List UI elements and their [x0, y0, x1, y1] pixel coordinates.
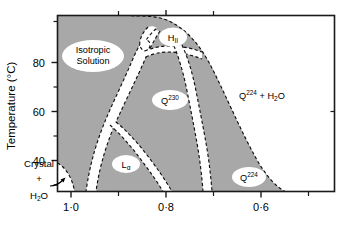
- q224w-end: O: [278, 91, 285, 101]
- corner-label-water: H2O: [30, 190, 48, 202]
- q224w-plus: + H: [257, 91, 274, 101]
- y-tick-label-80: 80: [33, 57, 45, 69]
- q224w-main: Q: [239, 91, 246, 101]
- phase-diagram-canvas: Temperature (°C) 80 60 40 1·0 0·8 0·6 Cr…: [0, 0, 345, 226]
- cubic-q224-label-sup: 224: [247, 171, 258, 178]
- x-tick-label-0-8: 0·8: [158, 201, 174, 213]
- cubic-q230-label-main: Q: [161, 96, 168, 106]
- isotropic-solution-label-line2: Solution: [76, 56, 109, 66]
- y-tick-label-60: 60: [33, 106, 45, 118]
- lamellar-alpha-label-sub: α: [127, 164, 131, 171]
- x-tick-label-0-6: 0·6: [253, 201, 269, 213]
- isotropic-solution-label-line1: Isotropic: [76, 45, 111, 55]
- y-axis-title: Temperature (°C): [5, 62, 17, 150]
- corner-label-water-o: O: [41, 190, 48, 201]
- hexagonal-ii-label-sub: II: [174, 37, 178, 44]
- q224w-sup: 224: [246, 89, 257, 96]
- cubic-q230-label-sup: 230: [168, 94, 179, 101]
- cubic-q224-plus-water-label: Q224 + H2O: [239, 89, 285, 102]
- corner-label-crystal: Crystal: [24, 158, 54, 169]
- hexagonal-ii-label-main: H: [168, 33, 175, 43]
- cubic-q224-label-main: Q: [240, 173, 247, 183]
- corner-label-plus: +: [36, 173, 42, 184]
- x-tick-label-1-0: 1·0: [63, 201, 79, 213]
- phase-diagram-figure: Temperature (°C) 80 60 40 1·0 0·8 0·6 Cr…: [0, 0, 345, 226]
